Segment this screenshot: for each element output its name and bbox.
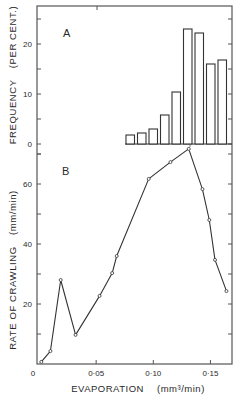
histogram-bar <box>218 60 227 144</box>
panel-b-ylabel-unit: (mm/min) <box>7 190 18 235</box>
histogram-bar <box>195 33 204 144</box>
crawling-rate-line <box>41 149 226 362</box>
panel-a-bars <box>125 29 232 147</box>
panel-a-y-tick-label: 0 <box>28 140 33 149</box>
histogram-bar <box>126 135 135 144</box>
panel-a-ylabel-unit: (PER CENT.) <box>7 6 18 69</box>
data-point-marker <box>208 219 211 222</box>
panel-b-y-tick-label: 60 <box>23 180 32 189</box>
data-point-marker <box>169 161 172 164</box>
histogram-bar <box>184 29 193 144</box>
histogram-bar <box>138 133 147 144</box>
data-point-marker <box>147 177 150 180</box>
panel-b-y-tick-label: 40 <box>23 240 32 249</box>
panel-a-label: A <box>63 27 71 39</box>
data-point-marker <box>187 147 190 150</box>
panel-b-x-tick-label: 0·05 <box>88 369 105 378</box>
data-point-marker <box>49 350 52 353</box>
histogram-bar <box>207 64 216 144</box>
data-point-marker <box>74 333 77 336</box>
panel-b-xlabel-unit: (mm³/min) <box>157 383 205 394</box>
data-point-marker <box>214 258 217 261</box>
panel-b-crawling-rate-line-chart: B 204060 00·050·100·15 RATE OF CRAWLING … <box>7 147 232 394</box>
panel-a-ylabel-main: FREQUENCY <box>7 79 18 144</box>
panel-a-y-tick-label: 20 <box>23 40 32 49</box>
panel-a-y-tick-label: 10 <box>23 90 32 99</box>
data-point-marker <box>111 272 114 275</box>
svg-text:RATE OF CRAWLING (mm: RATE OF CRAWLING (mm/min) <box>7 190 18 350</box>
panel-b-ylabel-main: RATE OF CRAWLING <box>7 246 18 350</box>
data-point-marker <box>40 360 43 363</box>
figure: A 01020 FREQUENCY (PER CENT.) B 204060 0… <box>0 0 241 402</box>
panel-b-y-axis-title: RATE OF CRAWLING (mm/min) <box>7 190 18 350</box>
data-point-marker <box>59 279 62 282</box>
chart-svg: A 01020 FREQUENCY (PER CENT.) B 204060 0… <box>0 0 241 402</box>
panel-b-y-tick-label: 20 <box>23 300 32 309</box>
panel-b-x-tick-label: 0 <box>31 369 36 378</box>
histogram-bar <box>161 115 170 144</box>
svg-text:FREQUENCY (PER CENT.: FREQUENCY (PER CENT.) <box>7 6 18 145</box>
panel-a-y-axis-title: FREQUENCY (PER CENT.) <box>7 6 18 145</box>
panel-b-y-axis-ticks: 204060 <box>23 154 232 334</box>
panel-b-x-tick-label: 0·10 <box>145 369 162 378</box>
data-point-marker <box>201 188 204 191</box>
histogram-bar <box>149 129 158 144</box>
panel-b-x-tick-label: 0·15 <box>202 369 219 378</box>
panel-b-label: B <box>62 165 69 177</box>
data-point-marker <box>115 255 118 258</box>
histogram-bar <box>172 92 181 144</box>
data-point-marker <box>98 294 101 297</box>
data-point-marker <box>225 290 228 293</box>
panel-a-frequency-histogram: A 01020 FREQUENCY (PER CENT.) <box>7 6 232 154</box>
panel-b-xlabel-main: EVAPORATION <box>71 383 144 394</box>
panel-b-x-axis-ticks: 00·050·100·15 <box>31 360 219 378</box>
panel-b-x-axis-title: EVAPORATION (mm³/min) <box>71 383 205 394</box>
panel-b-data-line <box>40 147 228 363</box>
